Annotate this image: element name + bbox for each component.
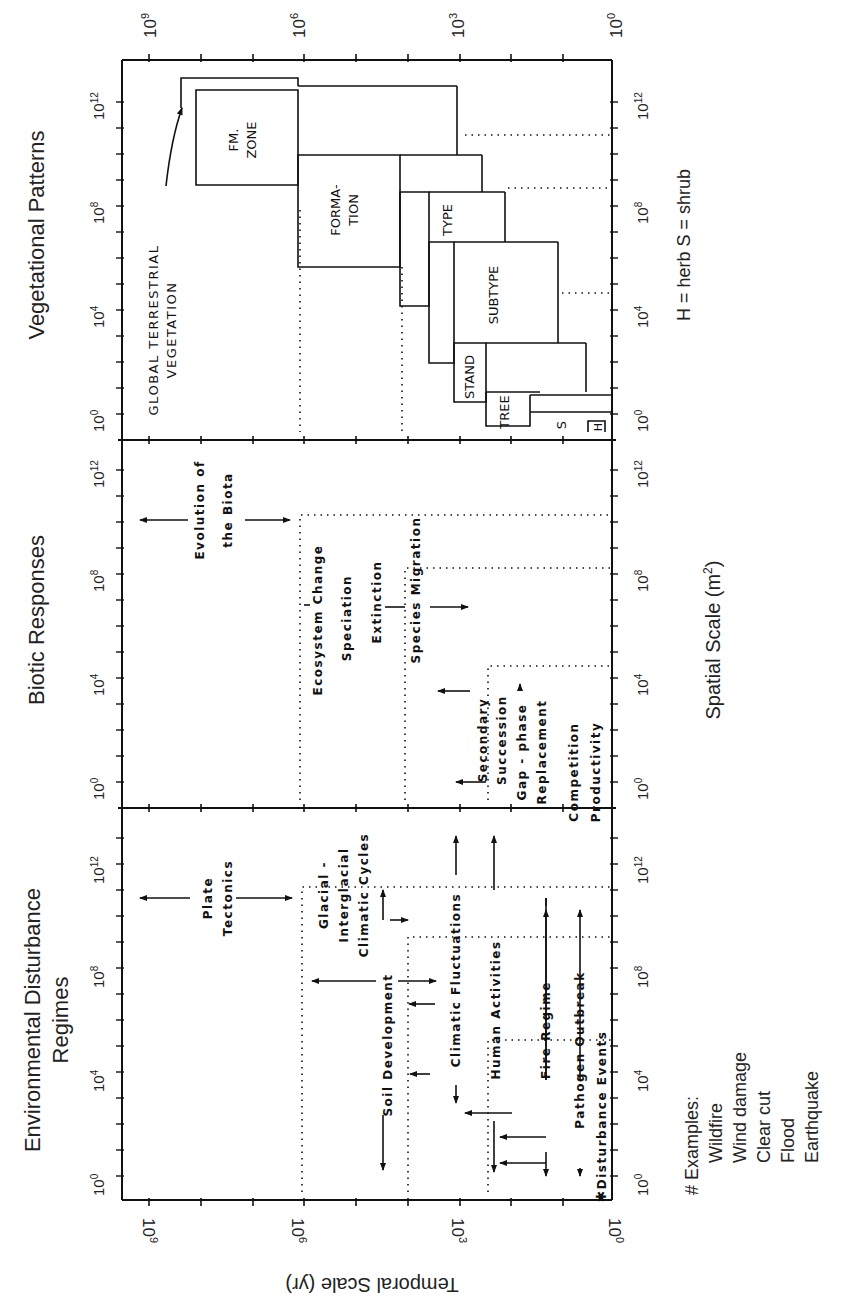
panel-title-vegetation: Vegetational Patterns [24, 130, 49, 339]
svg-text:Extinction: Extinction [370, 560, 384, 643]
svg-text:108: 108 [89, 569, 107, 592]
svg-text:100: 100 [605, 1218, 626, 1243]
svg-text:106: 106 [288, 13, 309, 38]
svg-text:Soil Development: Soil Development [381, 973, 395, 1116]
panel-title-disturbance-2: Regimes [48, 977, 73, 1064]
svg-text:104: 104 [633, 1069, 651, 1092]
svg-text:Speciation: Speciation [340, 575, 354, 661]
svg-text:Flood: Flood [778, 1118, 798, 1163]
temporal-axis-label: Temporal Scale (yr) [285, 1274, 458, 1296]
svg-text:104: 104 [633, 673, 651, 696]
svg-text:Human Activities: Human Activities [489, 940, 503, 1079]
svg-text:100: 100 [89, 409, 107, 432]
svg-text:109: 109 [139, 1218, 160, 1243]
svg-text:108: 108 [633, 965, 651, 988]
svg-text:Plate: Plate [201, 877, 215, 919]
spatial-axis-right: 100 104 108 1012 100 104 108 1012 100 10… [633, 92, 651, 1196]
svg-text:104: 104 [633, 305, 651, 328]
svg-text:✱: ✱ [593, 1189, 609, 1202]
panel-title-biotic: Biotic Responses [24, 535, 49, 705]
svg-text:# Examples:: # Examples: [682, 1096, 702, 1195]
svg-text:100: 100 [605, 13, 626, 38]
svg-text:100: 100 [633, 409, 651, 432]
svg-text:VEGETATION: VEGETATION [164, 282, 179, 379]
global-vegetation-arrow [166, 108, 182, 186]
svg-text:108: 108 [89, 201, 107, 224]
svg-text:1012: 1012 [633, 460, 651, 488]
svg-text:Tectonics: Tectonics [221, 860, 235, 936]
svg-text:100: 100 [89, 1173, 107, 1196]
svg-text:104: 104 [89, 673, 107, 696]
panel-title-disturbance: Environmental Disturbance [20, 888, 45, 1152]
svg-text:Gap - phase: Gap - phase [515, 704, 529, 801]
svg-text:Wildfire: Wildfire [706, 1103, 726, 1163]
svg-text:Wind damage: Wind damage [730, 1052, 750, 1163]
svg-text:100: 100 [89, 777, 107, 800]
svg-text:H: H [592, 423, 605, 431]
svg-text:100: 100 [633, 1173, 651, 1196]
examples-legend: # Examples: Wildfire Wind damage Clear c… [682, 1052, 822, 1195]
spatial-axis-label: Spatial Scale (m2) [701, 561, 724, 720]
svg-text:Climatic Cycles: Climatic Cycles [357, 833, 371, 957]
svg-text:Climatic Fluctuations: Climatic Fluctuations [449, 893, 463, 1067]
svg-text:104: 104 [89, 305, 107, 328]
svg-text:108: 108 [633, 201, 651, 224]
svg-text:Earthquake: Earthquake [802, 1071, 822, 1163]
svg-text:Pathogen Outbreak: Pathogen Outbreak [573, 971, 587, 1128]
temporal-axis-bottom: 109 106 103 100 [139, 1218, 626, 1243]
svg-text:100: 100 [633, 777, 651, 800]
svg-text:Secondary: Secondary [476, 698, 490, 783]
svg-text:Replacement: Replacement [535, 700, 549, 805]
scale-diagram: 109 106 103 100 109 106 103 100 Temporal… [0, 0, 846, 1314]
svg-text:TION: TION [346, 194, 361, 227]
svg-text:FM.: FM. [226, 129, 241, 152]
vegetation-labels: GLOBAL TERRESTRIAL VEGETATION FM. ZONE F… [146, 121, 605, 431]
disturbance-labels: Plate Tectonics Glacial - Interglacial C… [201, 833, 609, 1203]
svg-text:TYPE: TYPE [440, 204, 455, 237]
temporal-axis-top: 109 106 103 100 [139, 13, 626, 38]
svg-text:Succession: Succession [495, 695, 509, 785]
svg-text:Glacial -: Glacial - [317, 861, 331, 929]
svg-text:ZONE: ZONE [244, 121, 259, 158]
svg-text:1012: 1012 [633, 92, 651, 120]
svg-text:STAND: STAND [462, 355, 477, 399]
svg-text:Productivity: Productivity [589, 722, 603, 823]
svg-text:Interglacial: Interglacial [337, 847, 351, 942]
svg-text:103: 103 [447, 13, 468, 38]
svg-text:TREE: TREE [497, 395, 512, 429]
svg-text:Clear cut: Clear cut [754, 1091, 774, 1163]
svg-text:Evolution of: Evolution of [193, 460, 207, 559]
svg-text:104: 104 [89, 1069, 107, 1092]
svg-text:108: 108 [633, 569, 651, 592]
svg-text:1012: 1012 [89, 92, 107, 120]
svg-text:109: 109 [139, 13, 160, 38]
svg-text:Fire Regime: Fire Regime [539, 981, 553, 1079]
svg-text:Competition: Competition [567, 722, 581, 821]
svg-text:GLOBAL TERRESTRIAL: GLOBAL TERRESTRIAL [146, 245, 161, 416]
svg-text:103: 103 [448, 1218, 469, 1243]
spatial-axis-left: 100 104 108 1012 100 104 108 1012 100 10… [89, 92, 107, 1196]
svg-text:1012: 1012 [89, 460, 107, 488]
herb-shrub-legend: H = herb S = shrub [674, 169, 694, 321]
svg-text:FORMA-: FORMA- [328, 184, 343, 236]
svg-text:108: 108 [89, 965, 107, 988]
svg-text:Ecosystem Change: Ecosystem Change [311, 545, 325, 696]
svg-text:SUBTYPE: SUBTYPE [486, 266, 501, 325]
svg-text:S: S [554, 421, 569, 429]
svg-text:the Biota: the Biota [221, 472, 235, 547]
svg-text:1012: 1012 [633, 856, 651, 884]
svg-text:Disturbance Events: Disturbance Events [595, 1031, 609, 1190]
svg-text:Species Migration: Species Migration [409, 517, 423, 664]
svg-text:1012: 1012 [89, 856, 107, 884]
svg-text:106: 106 [288, 1218, 309, 1243]
vegetation-dotted-lines [300, 135, 612, 432]
